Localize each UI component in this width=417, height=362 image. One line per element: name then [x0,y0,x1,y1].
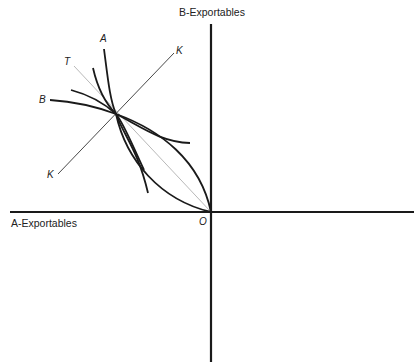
t-line [74,66,211,212]
curve-b-label: B [39,94,46,105]
curve-a-label: A [100,33,107,44]
diagram-canvas [0,0,417,362]
k-bottom-label: K [47,169,54,180]
origin-label: O [199,216,207,227]
t-label: T [64,56,70,67]
y-axis-label: B-Exportables [179,6,245,18]
curve-b-secondary [71,90,116,114]
curve-a-secondary [93,68,144,170]
x-axis-label: A-Exportables [11,217,77,229]
k-top-label: K [176,45,183,56]
